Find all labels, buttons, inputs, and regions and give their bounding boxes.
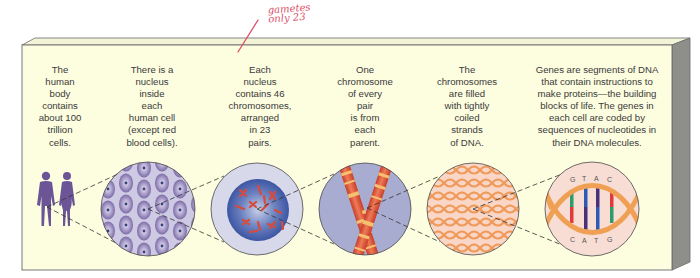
dna-coils-icon xyxy=(420,163,528,265)
dna-top-base-2: A xyxy=(594,175,599,182)
chromosome-icon xyxy=(319,161,411,264)
dna-bottom-base-1: A xyxy=(582,237,587,244)
dna-bottom-base-3: G xyxy=(607,236,612,243)
human-couple-icon xyxy=(37,172,75,226)
dna-top-base-3: C xyxy=(607,176,612,183)
dna-top-base-1: T xyxy=(582,175,587,182)
dna-bottom-base-2: T xyxy=(594,237,599,244)
diagram: gametes only 23 The human body contains … xyxy=(0,0,700,278)
illustrations: G T A C C A T G xyxy=(0,0,700,278)
dna-top-base-0: G xyxy=(570,176,575,183)
dna-bottom-base-0: C xyxy=(570,236,575,243)
dna-helix-icon: G T A C C A T G xyxy=(543,162,642,256)
cells-icon xyxy=(101,153,205,262)
